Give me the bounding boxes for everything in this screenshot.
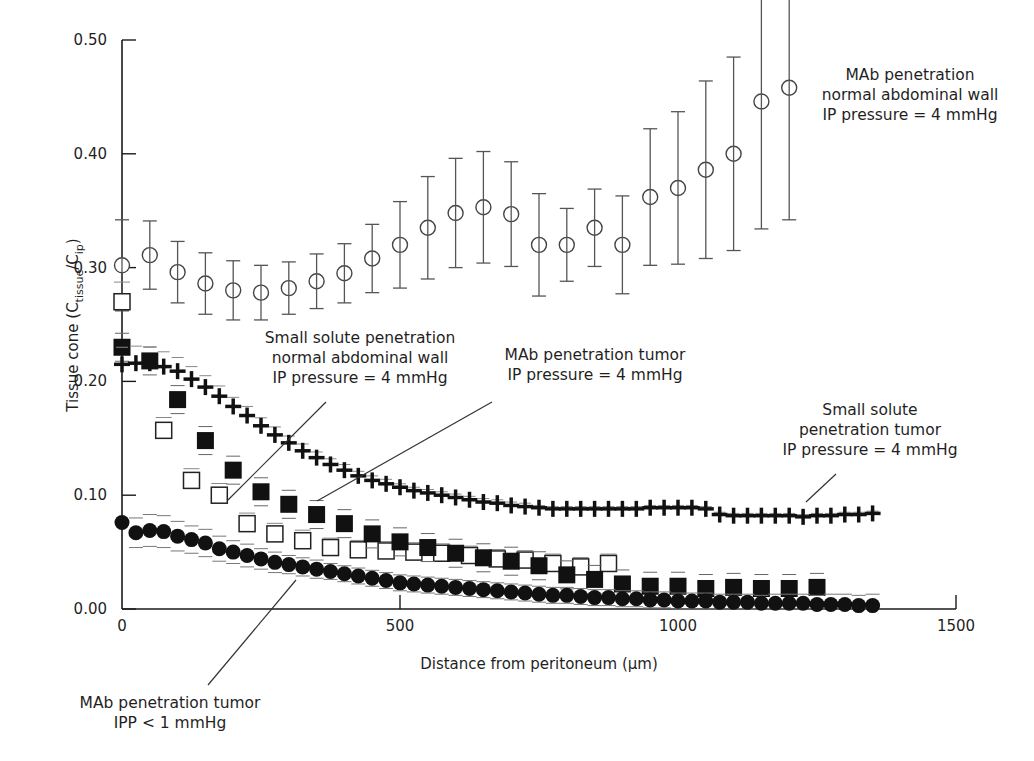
data-point <box>447 545 464 562</box>
x-tick-label: 500 <box>386 617 415 635</box>
data-point <box>601 590 616 605</box>
annotation-mab-normal: MAb penetrationnormal abdominal wallIP p… <box>790 65 1030 125</box>
data-point <box>184 532 199 547</box>
data-point <box>309 562 324 577</box>
data-point <box>308 506 325 523</box>
data-point <box>532 587 547 602</box>
data-point <box>684 594 699 609</box>
annotation-line: IPP < 1 mmHg <box>70 713 270 733</box>
data-point <box>615 591 630 606</box>
data-point <box>559 588 574 603</box>
y-tick-label: 0.40 <box>74 145 107 163</box>
data-point <box>226 545 241 560</box>
data-point <box>809 579 826 596</box>
data-point <box>254 551 269 566</box>
annotation-line: IP pressure = 4 mmHg <box>240 368 480 388</box>
data-point <box>753 580 770 597</box>
data-point <box>239 516 255 532</box>
data-point <box>280 496 297 513</box>
data-point <box>197 432 214 449</box>
data-point <box>115 515 130 530</box>
data-point <box>281 557 296 572</box>
data-point <box>573 589 588 604</box>
data-series <box>114 0 881 613</box>
data-point <box>475 549 492 566</box>
data-point <box>837 597 852 612</box>
data-point <box>504 584 519 599</box>
data-point <box>796 596 811 611</box>
data-point <box>671 594 686 609</box>
data-point <box>420 578 435 593</box>
leader-line <box>208 580 296 685</box>
data-point <box>323 540 339 556</box>
data-point <box>267 526 283 542</box>
data-point <box>629 591 644 606</box>
data-point <box>267 555 282 570</box>
data-point <box>212 541 227 556</box>
x-tick-label: 1000 <box>659 617 697 635</box>
data-point <box>490 583 505 598</box>
data-point <box>156 524 171 539</box>
data-point <box>476 582 491 597</box>
data-point <box>379 573 394 588</box>
data-point <box>657 592 672 607</box>
x-tick-label: 1500 <box>937 617 975 635</box>
annotation-line: MAb penetration <box>790 65 1030 85</box>
data-point <box>462 581 477 596</box>
data-point <box>406 576 421 591</box>
data-point <box>156 422 172 438</box>
data-point <box>253 483 270 500</box>
data-point <box>865 598 880 613</box>
data-point <box>518 586 533 601</box>
data-point <box>768 596 783 611</box>
y-tick-label: 0.00 <box>74 600 107 618</box>
data-point <box>587 590 602 605</box>
annotation-line: Small solute <box>760 400 980 420</box>
data-point <box>337 566 352 581</box>
data-point <box>336 515 353 532</box>
data-point <box>726 595 741 610</box>
data-point <box>142 523 157 538</box>
annotation-line: normal abdominal wall <box>790 85 1030 105</box>
annotation-line: MAb penetration tumor <box>480 345 710 365</box>
data-point <box>323 564 338 579</box>
data-point <box>531 557 548 574</box>
data-point <box>184 472 200 488</box>
data-point <box>670 578 687 595</box>
data-point <box>393 575 408 590</box>
data-point <box>614 575 631 592</box>
y-tick-label: 0.10 <box>74 486 107 504</box>
data-point <box>740 595 755 610</box>
data-point <box>643 592 658 607</box>
leader-line <box>806 474 836 502</box>
data-point <box>586 571 603 588</box>
data-point <box>419 539 436 556</box>
data-point <box>295 533 311 549</box>
data-point <box>365 571 380 586</box>
annotation-line: normal abdominal wall <box>240 348 480 368</box>
annotation-line: IP pressure = 4 mmHg <box>760 440 980 460</box>
data-point <box>448 580 463 595</box>
data-point <box>725 579 742 596</box>
data-point <box>434 579 449 594</box>
data-point <box>114 294 130 310</box>
data-point <box>351 568 366 583</box>
annotation-small-tumor: Small solutepenetration tumorIP pressure… <box>760 400 980 460</box>
data-point <box>364 525 381 542</box>
data-point <box>170 529 185 544</box>
data-point <box>295 559 310 574</box>
data-point <box>810 597 825 612</box>
data-point <box>211 487 227 503</box>
data-point <box>169 391 186 408</box>
x-tick-label: 0 <box>117 617 127 635</box>
data-point <box>350 542 366 558</box>
annotation-mab-tumor: MAb penetration tumorIP pressure = 4 mmH… <box>480 345 710 385</box>
annotation-line: MAb penetration tumor <box>70 693 270 713</box>
data-point <box>128 525 143 540</box>
data-point <box>823 597 838 612</box>
annotation-line: IP pressure = 4 mmHg <box>790 105 1030 125</box>
annotation-small-normal: Small solute penetrationnormal abdominal… <box>240 328 480 388</box>
data-point <box>712 595 727 610</box>
annotation-line: penetration tumor <box>760 420 980 440</box>
data-point <box>754 596 769 611</box>
